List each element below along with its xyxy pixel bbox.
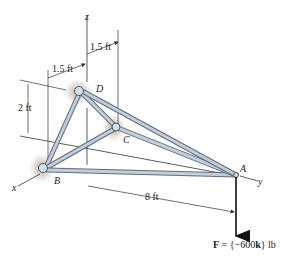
dim-label-top: 1.5 ft [90,41,111,52]
joint-d [75,87,84,96]
z-axis-label: z [84,11,89,22]
dim-label-left: 1.5 ft [52,63,73,74]
axes [18,15,258,186]
truss-diagram: z x y D C B A 1.5 ft 1.5 ft 2 ft 8 ft F … [0,0,290,260]
dim-label-height: 2 ft [18,102,32,113]
dim-length [88,186,234,212]
members [46,92,236,175]
x-axis-label: x [11,182,17,193]
force-suffix: } lb [261,239,276,250]
dim-label-length: 8 ft [145,191,159,202]
y-axis [240,176,258,181]
joint-b [39,164,48,173]
ext-line-d [20,80,66,90]
joint-label-a: A [239,163,247,174]
joint-a [234,173,239,178]
y-axis-label: y [257,176,263,187]
joint-label-d: D [95,83,104,94]
joint-label-b: B [54,175,60,186]
joint-label-c: C [123,134,130,145]
dimension-lines [20,30,234,212]
joint-c [112,123,120,131]
force-equals: = {−600 [219,239,255,250]
force-label: F = {−600k} lb [213,239,276,250]
